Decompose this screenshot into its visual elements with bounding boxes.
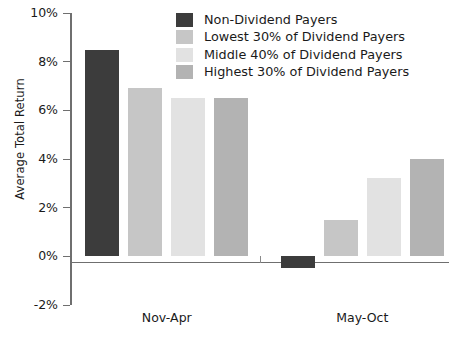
bar	[281, 256, 315, 268]
legend-item: Lowest 30% of Dividend Payers	[176, 29, 409, 47]
bar	[171, 98, 205, 256]
y-axis-tick-label: 8%	[0, 54, 58, 69]
y-axis-tick	[63, 61, 70, 62]
legend-swatch-icon	[176, 65, 193, 79]
y-axis-tick-label: 6%	[0, 102, 58, 117]
bar-chart: Average Total Return 10%8%6%4%2%0%-2% No…	[0, 0, 459, 337]
legend-item-label: Lowest 30% of Dividend Payers	[204, 30, 405, 44]
y-axis-tick-label: 0%	[0, 248, 58, 263]
y-axis-tick	[63, 256, 70, 257]
y-axis-tick	[63, 305, 70, 306]
legend-item-label: Non-Dividend Payers	[204, 13, 337, 27]
y-axis-tick	[63, 110, 70, 111]
bar	[324, 220, 358, 257]
bar	[128, 88, 162, 256]
legend-swatch-icon	[176, 13, 193, 27]
x-axis-group-separator-tick	[260, 256, 261, 263]
y-axis-tick-label: 2%	[0, 200, 58, 215]
legend-swatch-icon	[176, 48, 193, 62]
y-axis-tick	[63, 159, 70, 160]
bar	[85, 50, 119, 257]
y-axis-tick	[63, 207, 70, 208]
bar	[214, 98, 248, 256]
chart-legend: Non-Dividend PayersLowest 30% of Dividen…	[176, 11, 409, 81]
legend-item: Non-Dividend Payers	[176, 11, 409, 29]
bar	[367, 178, 401, 256]
legend-item: Middle 40% of Dividend Payers	[176, 46, 409, 64]
legend-item: Highest 30% of Dividend Payers	[176, 64, 409, 82]
legend-item-label: Highest 30% of Dividend Payers	[204, 65, 409, 79]
x-axis-tick-label: May-Oct	[261, 310, 459, 325]
y-axis-tick	[63, 13, 70, 14]
y-axis-tick-label: -2%	[0, 297, 58, 312]
y-axis-tick-label: 10%	[0, 5, 58, 20]
bar	[410, 159, 444, 256]
x-axis-tick-label: Nov-Apr	[65, 310, 268, 325]
legend-item-label: Middle 40% of Dividend Payers	[204, 48, 402, 62]
legend-swatch-icon	[176, 30, 193, 44]
y-axis-tick-label: 4%	[0, 151, 58, 166]
